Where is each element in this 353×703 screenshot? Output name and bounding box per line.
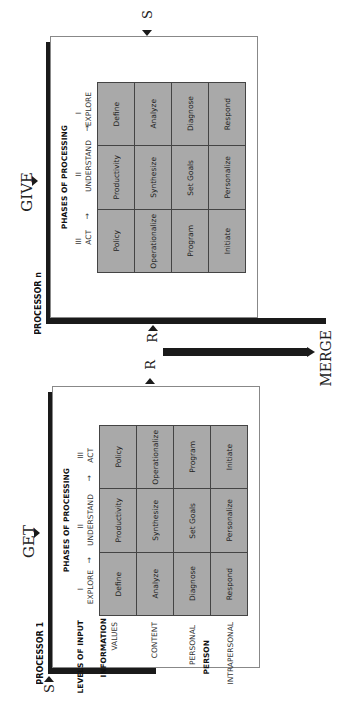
grid-cell: Diagnose [171, 82, 209, 146]
grid-cell: Respond [210, 552, 248, 616]
levels-title: LEVELS OF INPUT [76, 620, 96, 694]
processor-1-phases-title: PHASES OF PROCESSING [62, 468, 71, 572]
r-arrow-1-icon [145, 378, 155, 384]
merge-arrow-icon [307, 347, 315, 357]
r-arrow-n-icon [148, 325, 158, 331]
grid-cell: Productivity [97, 145, 135, 210]
grid-cell: Program [173, 425, 211, 489]
grid-cell: Productivity [99, 488, 137, 553]
grid-cell: Define [97, 82, 135, 146]
connector-r-1: R [143, 360, 158, 370]
grid-cell: Analyze [134, 82, 172, 146]
level-values: VALUES [110, 622, 119, 651]
processor-1-arrow2-icon: ↑ [86, 474, 92, 483]
processor-n-phase-2-label: UNDERSTAND [84, 140, 93, 192]
grid-cell: Program [171, 209, 209, 273]
level-personal: PERSONAL [188, 625, 197, 665]
grid-cell: Synthesize [136, 488, 174, 553]
grid-cell: Personalize [210, 488, 248, 553]
grid-cell: Initiate [210, 425, 248, 489]
grid-cell: Policy [99, 425, 137, 489]
processor-n-arrow-left-icon: ↑ [84, 212, 90, 221]
grid-cell: Set Goals [171, 145, 209, 210]
grid-cell: Operationalize [136, 425, 174, 489]
s-arrow-top-icon [142, 30, 152, 36]
connector-r-n: R [145, 333, 160, 343]
grid-cell: Personalize [208, 145, 246, 210]
grid-cell: Set Goals [173, 488, 211, 553]
processor-n-phase-3-label: ACT [84, 230, 93, 245]
processor-1-phase-3-label: ACT [86, 448, 95, 463]
merge-label: MERGE [318, 330, 334, 387]
level-intrapersonal: INTRAPERSONAL [226, 622, 235, 685]
processor-n-phases-title: PHASES OF PROCESSING [60, 125, 69, 229]
give-arrow-icon [32, 176, 38, 186]
connector-s-bottom: S [42, 684, 57, 693]
processor-n-phase-1-label: EXPLORE [84, 92, 93, 126]
get-arrow-icon [34, 528, 40, 538]
level-group-information: INFORMATION [99, 618, 108, 678]
processor-1-phase-1-numeral: I [76, 588, 85, 590]
processor-1-phase-2-label: UNDERSTAND [86, 494, 95, 546]
grid-cell: Analyze [136, 552, 174, 616]
processor-n-phase-2-numeral: II [74, 172, 83, 176]
grid-cell: Policy [97, 209, 135, 273]
processor-n-title: PROCESSOR n [34, 272, 43, 335]
processor-1-phase-1-label: EXPLORE [86, 570, 95, 604]
connector-s-top: S [140, 10, 155, 19]
processor-1-arrow1-icon: ↑ [86, 556, 92, 565]
processor-n-phase-3-numeral: III [74, 238, 83, 245]
grid-cell: Operationalize [134, 209, 172, 273]
grid-cell: Respond [208, 82, 246, 146]
processor-1-phase-2-numeral: II [76, 524, 85, 528]
level-group-person: PERSON [202, 640, 211, 674]
grid-cell: Synthesize [134, 145, 172, 210]
merge-arrow-shaft [163, 348, 307, 356]
level-content: CONTENT [150, 622, 159, 658]
s-arrow-bottom-icon [44, 676, 54, 682]
processor-n-shadow-bottom [46, 318, 326, 324]
grid-cell: Define [99, 552, 137, 616]
grid-cell: Initiate [208, 209, 246, 273]
grid-cell: Diagnose [173, 552, 211, 616]
processor-1-phase-3-numeral: III [76, 452, 85, 459]
processor-n-phase-1-numeral: I [74, 112, 83, 114]
